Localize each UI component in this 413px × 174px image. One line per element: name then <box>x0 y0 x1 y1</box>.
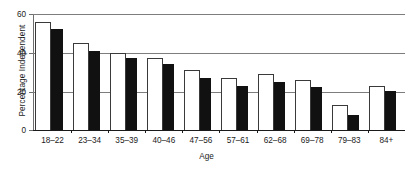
bar-black <box>126 58 137 130</box>
y-tick-mark-60 <box>29 14 33 15</box>
x-tick-label: 84+ <box>368 136 405 145</box>
y-tick-label-20: 20 <box>17 88 26 97</box>
bar-group <box>368 14 405 130</box>
x-tick-label: 23–34 <box>71 136 108 145</box>
x-tick-mark <box>294 130 295 133</box>
bar-white <box>184 70 200 130</box>
x-tick-label: 57–61 <box>219 136 256 145</box>
bar-group <box>145 14 182 130</box>
x-tick-label: 40–46 <box>145 136 182 145</box>
bar-black <box>237 86 248 130</box>
bar-black <box>274 82 285 130</box>
bar-black <box>200 78 211 130</box>
x-tick-mark <box>368 130 369 133</box>
bar-white <box>295 80 311 130</box>
bar-black <box>163 64 174 130</box>
bar-chart: Percentage Independent 60 40 20 0 18–222… <box>0 0 413 174</box>
plot-area: 60 40 20 0 <box>33 14 405 131</box>
y-axis-title: Percentage Independent <box>18 1 27 141</box>
bar-group <box>257 14 294 130</box>
bar-group <box>71 14 108 130</box>
x-tick-label: 69–78 <box>294 136 331 145</box>
bar-black <box>51 29 62 130</box>
y-tick-label-40: 40 <box>17 49 26 58</box>
bar-black <box>385 91 396 130</box>
bar-black <box>348 115 359 130</box>
y-tick-label-0: 0 <box>21 126 26 135</box>
y-tick-mark-20 <box>29 92 33 93</box>
x-tick-mark <box>331 130 332 133</box>
bar-white <box>332 105 348 130</box>
x-tick-mark <box>108 130 109 133</box>
bar-white <box>110 53 126 130</box>
bar-group <box>219 14 256 130</box>
bar-black <box>89 51 100 130</box>
x-tick-label: 47–56 <box>182 136 219 145</box>
x-tick-mark <box>182 130 183 133</box>
bar-white <box>221 78 237 130</box>
bar-group <box>182 14 219 130</box>
x-tick-mark <box>145 130 146 133</box>
bar-white <box>369 86 385 130</box>
bar-black <box>311 87 322 130</box>
x-tick-mark <box>219 130 220 133</box>
bar-white <box>147 58 163 130</box>
x-tick-mark <box>257 130 258 133</box>
x-tick-label: 18–22 <box>34 136 71 145</box>
bar-group <box>108 14 145 130</box>
x-tick-label: 79–83 <box>331 136 368 145</box>
y-tick-mark-40 <box>29 53 33 54</box>
bar-group <box>331 14 368 130</box>
bar-series-container <box>34 14 405 130</box>
y-tick-label-60: 60 <box>17 10 26 19</box>
bar-group <box>34 14 71 130</box>
y-tick-mark-0 <box>29 130 33 131</box>
x-tick-label: 62–68 <box>257 136 294 145</box>
x-tick-mark <box>71 130 72 133</box>
bar-white <box>258 74 274 130</box>
bar-white <box>73 43 89 130</box>
x-tick-label: 35–39 <box>108 136 145 145</box>
bar-group <box>294 14 331 130</box>
bar-white <box>35 22 51 130</box>
x-axis-tick-labels: 18–2223–3435–3940–4647–5657–6162–6869–78… <box>34 136 405 145</box>
x-axis-title: Age <box>0 152 413 161</box>
